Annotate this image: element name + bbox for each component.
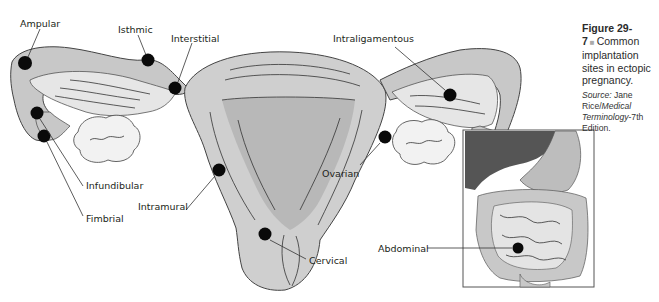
label-intraligamentous: Intraligamentous [333, 33, 414, 44]
abdominal-inset [463, 130, 594, 287]
ectopic-pregnancy-diagram: Ampular Isthmic Interstitial Intraligame… [0, 0, 659, 302]
site-ovarian [379, 131, 392, 144]
label-infundibular: Infundibular [86, 180, 143, 191]
right-ovary [393, 120, 455, 165]
label-ovarian: Ovarian [322, 168, 359, 179]
label-ampular: Ampular [20, 18, 60, 29]
left-ovary [74, 115, 140, 162]
figure-source: Source: Jane Rice/Medical Terminology-7t… [582, 90, 659, 134]
site-interstitial [169, 82, 182, 95]
label-cervical: Cervical [309, 255, 347, 266]
label-isthmic: Isthmic [118, 24, 153, 35]
site-infundibular [31, 107, 44, 120]
label-abdominal: Abdominal [378, 243, 429, 254]
site-ampular [18, 56, 32, 70]
site-fimbrial [38, 130, 51, 143]
label-interstitial: Interstitial [171, 33, 219, 44]
figure-caption: Figure 29-7■Common implantation sites in… [582, 22, 659, 134]
site-abdominal [513, 243, 524, 254]
label-fimbrial: Fimbrial [86, 213, 124, 224]
site-isthmic [142, 54, 155, 67]
site-intramural [213, 164, 226, 177]
site-cervical [259, 228, 272, 241]
source-label: Source: [582, 90, 612, 100]
label-intramural: Intramural [138, 201, 188, 212]
separator: ■ [588, 38, 597, 47]
site-intraligamentous [444, 89, 457, 102]
